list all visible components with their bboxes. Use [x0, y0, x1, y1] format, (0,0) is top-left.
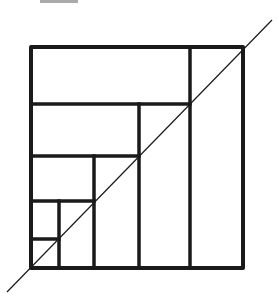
inner-partition-lines: [31, 47, 190, 268]
nested-rectangles-diagram: [0, 0, 279, 308]
clipped-top-text-fragment: [40, 0, 78, 3]
